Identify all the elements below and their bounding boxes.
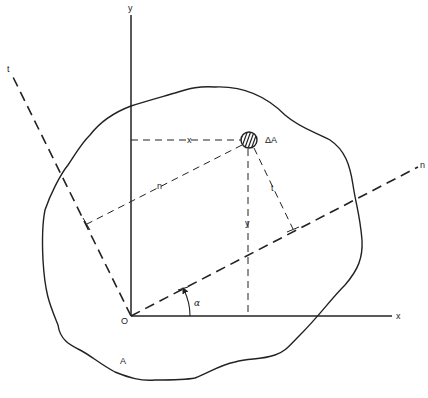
area-outline	[42, 87, 362, 380]
t-axis-label: t	[7, 64, 10, 74]
alpha-label: α	[194, 298, 200, 308]
x-axis-label: x	[396, 311, 401, 321]
dist-x-label: x	[187, 135, 192, 145]
origin-label: O	[121, 316, 128, 326]
t-axis	[12, 75, 131, 316]
alpha-arc	[184, 290, 190, 316]
dist-n-line	[87, 145, 242, 224]
dist-n-label: n	[157, 181, 162, 191]
area-moment-diagram: y x n t O A ΔA α x y n t	[0, 0, 428, 398]
dist-y-label: y	[245, 218, 250, 228]
dist-n-tick	[83, 218, 90, 230]
y-axis-label: y	[128, 3, 133, 13]
element-label: ΔA	[265, 135, 277, 145]
n-axis	[131, 167, 418, 316]
dist-t-label: t	[271, 183, 274, 193]
area-label: A	[120, 356, 126, 366]
alpha-tick	[178, 287, 188, 290]
n-axis-label: n	[420, 160, 425, 170]
